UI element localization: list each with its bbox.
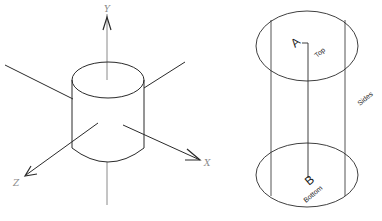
sides-label: Sides (356, 90, 374, 107)
cylinder-top-ellipse (72, 62, 144, 98)
left-panel-cylinder-axes: Y Z X (5, 4, 211, 205)
x-axis-negative (5, 65, 73, 99)
point-a-label: A (288, 34, 303, 50)
x-axis-label: X (203, 158, 211, 168)
top-label: Top (313, 46, 327, 59)
z-axis-label: Z (12, 178, 20, 188)
y-axis-label: Y (104, 4, 111, 14)
bottom-label: Bottom (302, 184, 324, 204)
z-axis-positive (26, 123, 98, 175)
right-panel-cylinder-surfaces: A Top B Bottom Sides (256, 11, 374, 207)
point-b-label: B (302, 172, 317, 188)
cylinder-bottom-arc (72, 148, 144, 162)
z-axis-negative (144, 62, 185, 88)
diagram-canvas: Y Z X A Top B Bo (0, 0, 382, 221)
